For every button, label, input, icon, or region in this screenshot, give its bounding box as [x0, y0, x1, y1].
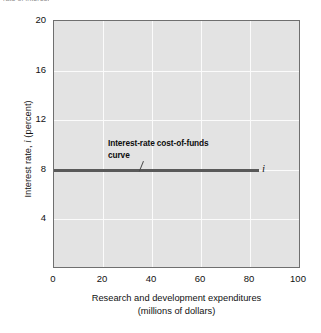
curve-symbol-label: i [262, 162, 265, 174]
plot-area: Interest-rate cost-of-fundscurve [53, 20, 300, 268]
y-axis-title-prefix: Interest rate, [23, 143, 33, 198]
curve-annotation: Interest-rate cost-of-fundscurve [108, 138, 209, 161]
gridline-horizontal [54, 71, 299, 72]
curve-annotation-line2: curve [108, 150, 130, 160]
top-caption: rate of interest [3, 0, 49, 1]
x-axis-title-line1: Research and development expenditures [92, 293, 262, 303]
y-axis-title-symbol: i [23, 140, 33, 143]
x-tick-label: 0 [40, 273, 66, 284]
x-tick-label: 100 [285, 273, 311, 284]
gridline-horizontal [54, 120, 299, 121]
figure-container: rate of interest Interest-rate cost-of-f… [0, 0, 321, 333]
curve-annotation-line1: Interest-rate cost-of-funds [108, 138, 209, 148]
gridline-horizontal [54, 219, 299, 220]
gridline-vertical [103, 21, 104, 267]
y-axis-title: Interest rate, i (percent) [23, 59, 33, 239]
x-tick-label: 60 [187, 273, 213, 284]
y-tick-label: 20 [24, 14, 46, 25]
interest-rate-cost-of-funds-curve [54, 169, 259, 172]
x-axis-title: Research and development expenditures(mi… [53, 292, 300, 317]
x-tick-label: 20 [89, 273, 115, 284]
x-tick-label: 40 [138, 273, 164, 284]
y-axis-title-suffix: (percent) [23, 100, 33, 140]
gridline-vertical [250, 21, 251, 267]
x-axis-title-line2: (millions of dollars) [138, 306, 216, 316]
x-tick-label: 80 [236, 273, 262, 284]
